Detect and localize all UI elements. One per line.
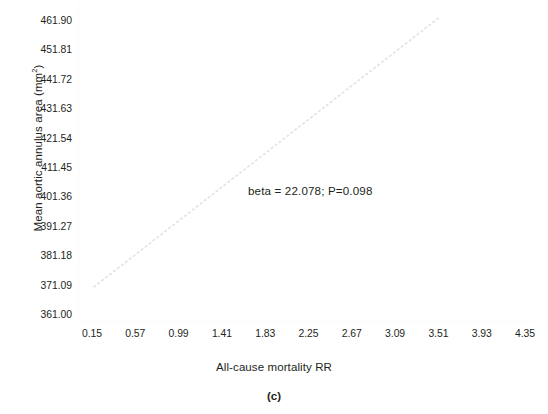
y-axis-tick-label: 381.18 (16, 250, 72, 261)
x-axis-tick-labels: 0.150.570.991.411.832.252.673.093.513.93… (0, 328, 548, 344)
y-axis-tick-labels: 461.90451.81441.72431.63421.54411.45401.… (14, 0, 72, 414)
y-axis-tick-label: 441.72 (16, 74, 72, 85)
y-axis-tick-label: 461.90 (16, 15, 72, 26)
figure-panel-c: Mean aortic annulus area (mm2) 461.90451… (0, 0, 548, 414)
y-axis-tick-label: 411.45 (16, 162, 72, 173)
y-axis-tick-label: 401.36 (16, 191, 72, 202)
y-axis-tick-label: 451.81 (16, 44, 72, 55)
y-axis-tick-label: 431.63 (16, 103, 72, 114)
trend-line-svg (78, 2, 534, 322)
y-axis-tick-label: 421.54 (16, 133, 72, 144)
panel-label: (c) (0, 390, 548, 402)
x-axis-tick-label: 4.35 (495, 328, 548, 339)
y-axis-tick-label: 361.00 (16, 309, 72, 320)
regression-stats-annotation: beta = 22.078; P=0.098 (248, 184, 373, 197)
x-axis-title: All-cause mortality RR (0, 361, 548, 373)
regression-trend-line (94, 17, 439, 287)
y-axis-tick-label: 391.27 (16, 221, 72, 232)
plot-area (78, 2, 534, 322)
y-axis-tick-label: 371.09 (16, 280, 72, 291)
